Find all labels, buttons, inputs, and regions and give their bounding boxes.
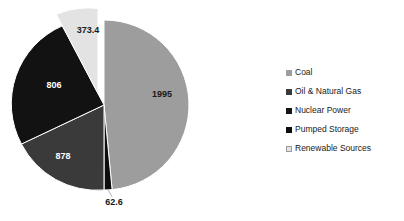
legend-item-oil-natural-gas[interactable]: Oil & Natural Gas bbox=[286, 82, 402, 101]
legend-item-coal[interactable]: Coal bbox=[286, 63, 402, 82]
slice-label-nuclear-power: 806 bbox=[46, 80, 61, 90]
legend-item-renewable-sources[interactable]: Renewable Sources bbox=[286, 139, 402, 158]
pie-chart: 1995 878 806 62.6 373.4 Coal Oil & Natur… bbox=[0, 0, 404, 221]
pie-slice-coal[interactable] bbox=[104, 20, 189, 190]
legend-swatch-pumped-storage bbox=[286, 127, 292, 133]
legend-swatch-coal bbox=[286, 70, 292, 76]
slice-label-coal: 1995 bbox=[152, 89, 172, 99]
legend-item-nuclear-power[interactable]: Nuclear Power bbox=[286, 101, 402, 120]
slice-label-oil-natural-gas: 878 bbox=[55, 151, 70, 161]
legend-swatch-nuclear-power bbox=[286, 108, 292, 114]
legend-label-renewable-sources: Renewable Sources bbox=[295, 144, 371, 153]
legend-swatch-oil-natural-gas bbox=[286, 89, 292, 95]
legend-label-nuclear-power: Nuclear Power bbox=[295, 106, 351, 115]
legend-label-oil-natural-gas: Oil & Natural Gas bbox=[295, 87, 361, 96]
pumped-storage-leader-line bbox=[108, 190, 112, 197]
legend-swatch-renewable-sources bbox=[286, 146, 292, 152]
chart-legend: Coal Oil & Natural Gas Nuclear Power Pum… bbox=[286, 63, 402, 158]
slice-label-renewable-sources: 373.4 bbox=[77, 25, 100, 35]
legend-item-pumped-storage[interactable]: Pumped Storage bbox=[286, 120, 402, 139]
legend-label-coal: Coal bbox=[295, 68, 312, 77]
slice-label-pumped-storage: 62.6 bbox=[105, 197, 123, 207]
legend-label-pumped-storage: Pumped Storage bbox=[295, 125, 359, 134]
